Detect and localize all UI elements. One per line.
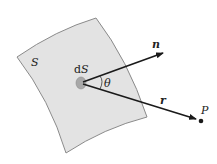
angle-label: θ — [104, 77, 111, 90]
surface-element — [76, 77, 86, 89]
normal-label: n — [152, 38, 160, 51]
surface-diagram: S dS n r θ P — [0, 0, 217, 164]
surface-label: S — [31, 56, 39, 69]
element-label: dS — [74, 63, 89, 76]
position-label: r — [160, 94, 167, 107]
point-p — [199, 119, 204, 124]
element-label-s: S — [81, 63, 89, 76]
point-label: P — [200, 104, 209, 117]
